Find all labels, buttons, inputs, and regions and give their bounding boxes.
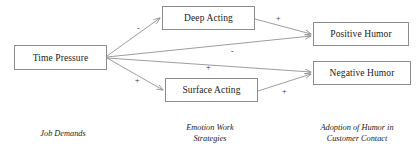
edge-sign-surface-acting-negative-humor: + (282, 88, 287, 96)
node-surface-acting[interactable]: Surface Acting (165, 78, 258, 102)
edge-time-pressure-to-positive-humor (107, 36, 311, 57)
edge-sign-time-pressure-negative-humor: + (206, 64, 211, 72)
edge-time-pressure-to-deep-acting (107, 18, 160, 56)
edge-time-pressure-to-surface-acting (107, 58, 163, 90)
column-label-emotion-work-strategies: Emotion Work Strategies (155, 122, 265, 144)
edge-sign-time-pressure-surface-acting: + (135, 77, 140, 85)
edge-sign-deep-acting-positive-humor: + (276, 15, 281, 23)
node-positive-humor[interactable]: Positive Humor (313, 22, 409, 46)
node-label-negative-humor: Negative Humor (330, 68, 395, 78)
node-label-time-pressure: Time Pressure (33, 53, 89, 63)
node-negative-humor[interactable]: Negative Humor (313, 61, 411, 85)
edge-sign-time-pressure-deep-acting: - (137, 25, 140, 33)
node-label-deep-acting: Deep Acting (184, 13, 233, 23)
node-label-surface-acting: Surface Acting (182, 85, 240, 95)
node-deep-acting[interactable]: Deep Acting (162, 6, 255, 30)
node-label-positive-humor: Positive Humor (330, 29, 391, 39)
edge-deep-acting-to-positive-humor (255, 19, 311, 34)
column-label-humor-adoption: Adoption of Humor in Customer Contact (298, 122, 416, 144)
node-time-pressure[interactable]: Time Pressure (14, 45, 107, 70)
column-label-job-demands: Job Demands (8, 128, 118, 139)
edge-sign-time-pressure-positive-humor: - (231, 48, 234, 56)
